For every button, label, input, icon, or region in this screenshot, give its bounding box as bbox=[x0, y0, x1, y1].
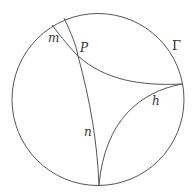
diagram-canvas: m P n h Γ bbox=[0, 0, 192, 196]
label-gamma: Γ bbox=[172, 38, 181, 53]
label-h: h bbox=[152, 94, 160, 108]
label-n: n bbox=[84, 125, 92, 139]
label-p: P bbox=[79, 41, 89, 55]
label-m: m bbox=[48, 31, 59, 45]
curve-h bbox=[99, 84, 182, 185]
